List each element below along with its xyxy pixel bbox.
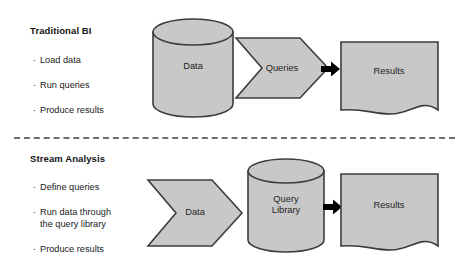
query-library-cylinder-label: Query Library — [245, 194, 327, 216]
bullet-item: ·Run queries — [33, 80, 90, 92]
bullet-label: Define queries — [40, 182, 99, 192]
bullet-label: Load data — [40, 55, 81, 65]
bullet-item: ·Run data through — [33, 207, 111, 219]
bullet-item: ·Produce results — [33, 105, 104, 117]
bullet-glyph: · — [33, 207, 40, 219]
diagram-root: Traditional BI ·Load data ·Run queries ·… — [0, 0, 471, 273]
results-document-shape — [339, 172, 441, 256]
data-cylinder-label: Data — [150, 61, 236, 72]
data-chevron-label: Data — [154, 207, 236, 218]
bullet-glyph: · — [33, 244, 40, 256]
bullet-glyph: · — [33, 182, 40, 194]
bullet-glyph: · — [33, 55, 40, 67]
results-document-shape — [339, 40, 441, 118]
bullet-label: Produce results — [40, 244, 104, 254]
bullet-item: ·Produce results — [33, 244, 104, 256]
bullet-item: ·Load data — [33, 55, 81, 67]
bullet-label-continuation: the query library — [40, 219, 106, 229]
query-library-label-line2: Library — [245, 205, 327, 216]
results-document-label: Results — [339, 200, 439, 211]
bullet-glyph: · — [33, 80, 40, 92]
query-library-label-line1: Query — [245, 194, 327, 205]
bullet-item: ·Define queries — [33, 182, 99, 194]
results-document-label: Results — [339, 66, 439, 77]
bullet-label: Produce results — [40, 105, 104, 115]
section-heading-stream-analysis: Stream Analysis — [30, 153, 105, 164]
bullet-label: Run queries — [40, 80, 90, 90]
flow-arrow-icon — [321, 61, 341, 77]
bullet-label: Run data through — [40, 207, 111, 217]
section-heading-traditional-bi: Traditional BI — [30, 25, 92, 36]
bullet-glyph: · — [33, 105, 40, 117]
section-divider — [14, 137, 455, 139]
queries-chevron-label: Queries — [242, 63, 322, 74]
